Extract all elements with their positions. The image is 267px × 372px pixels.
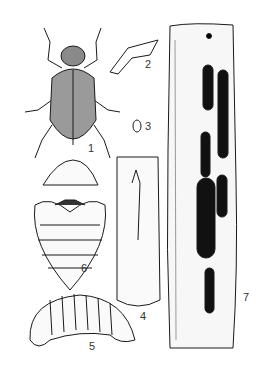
figure-label-7: 7 bbox=[243, 292, 249, 303]
stem-section-figure bbox=[117, 157, 160, 306]
egg-figure bbox=[133, 120, 141, 132]
figure-label-2: 2 bbox=[145, 59, 151, 70]
stem-gallery-figure bbox=[167, 24, 236, 348]
figure-label-3: 3 bbox=[145, 121, 151, 132]
beetle-figure bbox=[25, 28, 120, 158]
pupa-figure bbox=[34, 160, 105, 290]
figure-label-1: 1 bbox=[88, 143, 94, 154]
larva-figure bbox=[30, 294, 135, 346]
figure-label-5: 5 bbox=[89, 341, 95, 352]
figure-label-4: 4 bbox=[140, 311, 146, 322]
illustration-plate bbox=[0, 0, 267, 372]
figure-label-6: 6 bbox=[81, 263, 87, 274]
